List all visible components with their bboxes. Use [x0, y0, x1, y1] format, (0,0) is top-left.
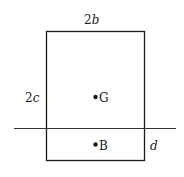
height-label: 2c	[25, 91, 40, 105]
center-of-buoyancy-point	[93, 142, 97, 146]
center-of-buoyancy-label: B	[99, 139, 108, 153]
draft-label: d	[150, 139, 158, 153]
center-of-gravity-point	[93, 95, 97, 99]
center-of-gravity-label: G	[99, 91, 109, 105]
diagram-canvas: 2b 2c G B d	[0, 0, 184, 177]
width-label: 2b	[84, 13, 99, 27]
